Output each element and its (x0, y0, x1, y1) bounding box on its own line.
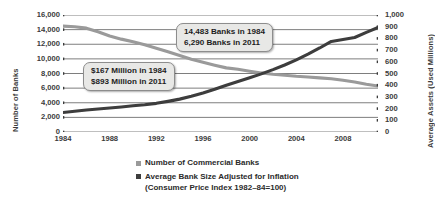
bank-size-callout: $167 Million in 1984 $893 Million in 201… (83, 62, 175, 91)
tick-mark (63, 101, 64, 104)
bank-size-callout-line-1: $167 Million in 1984 (91, 66, 167, 77)
tick-mark (63, 43, 64, 46)
x-tick-label: 1988 (101, 134, 118, 143)
tick-mark (63, 72, 64, 75)
right-tick-label: 800 (385, 34, 398, 42)
legend-label-bank-size-sub: (Consumer Price Index 1982–84=100) (145, 183, 299, 194)
left-tick-label: 16,000 (37, 11, 60, 19)
banks-callout-line-2: 6,290 Banks in 2011 (184, 38, 265, 49)
tick-mark (377, 119, 378, 122)
legend-item-banks: Number of Commercial Banks (136, 158, 396, 169)
right-tick-label: 500 (385, 70, 398, 78)
legend-label-banks: Number of Commercial Banks (145, 158, 259, 169)
left-tick-label: 10,000 (37, 55, 60, 63)
right-tick-label: 1,000 (385, 11, 404, 19)
right-tick-label: 700 (385, 46, 398, 54)
tick-mark (377, 15, 378, 16)
tick-mark (63, 58, 64, 61)
right-tick-label: 600 (385, 58, 398, 66)
legend-item-bank-size: Average Bank Size Adjusted for Inflation… (136, 172, 396, 194)
tick-mark (63, 15, 64, 16)
x-tick-label: 1984 (55, 134, 72, 143)
left-tick-label: 6,000 (41, 84, 60, 92)
x-tick-label: 1992 (148, 134, 165, 143)
right-axis-title: Average Assets (Used Millions) (426, 34, 435, 148)
chart-legend: Number of Commercial Banks Average Bank … (136, 158, 396, 196)
left-tick-label: 8,000 (41, 70, 60, 78)
tick-mark (377, 107, 378, 110)
left-tick-label: 14,000 (37, 26, 60, 34)
left-axis-title: Number of Banks (11, 68, 20, 132)
tick-mark (377, 61, 378, 64)
x-axis-ticks: 1984198819921996200020042008 (63, 134, 378, 148)
right-tick-label: 300 (385, 93, 398, 101)
banks-callout: 14,483 Banks in 1984 6,290 Banks in 2011 (176, 23, 273, 52)
tick-mark (63, 116, 64, 119)
tick-mark (377, 49, 378, 52)
tick-mark (63, 87, 64, 90)
right-tick-label: 200 (385, 105, 398, 113)
left-tick-label: 2,000 (41, 113, 60, 121)
tick-mark (377, 96, 378, 99)
banks-callout-line-1: 14,483 Banks in 1984 (184, 27, 265, 38)
tick-mark (63, 28, 64, 31)
x-tick-label: 1996 (195, 134, 212, 143)
left-tick-label: 12,000 (37, 40, 60, 48)
x-tick-label: 2008 (335, 134, 352, 143)
right-tick-label: 0 (385, 128, 389, 136)
tick-mark (377, 84, 378, 87)
tick-mark (377, 37, 378, 40)
left-tick-label: 4,000 (41, 99, 60, 107)
x-tick-label: 2004 (288, 134, 305, 143)
left-axis-ticks: 02,0004,0006,0008,00010,00012,00014,0001… (26, 0, 60, 141)
legend-label-bank-size: Average Bank Size Adjusted for Inflation… (145, 172, 299, 194)
right-tick-label: 100 (385, 116, 398, 124)
tick-mark (377, 131, 378, 132)
x-tick-label: 2000 (241, 134, 258, 143)
bank-size-callout-line-2: $893 Million in 2011 (91, 77, 167, 88)
tick-mark (63, 131, 64, 132)
right-axis-ticks: 01002003004005006007008009001,000 (385, 0, 419, 141)
tick-mark (377, 25, 378, 28)
right-tick-label: 900 (385, 23, 398, 31)
legend-swatch-icon (136, 174, 141, 179)
tick-mark (377, 72, 378, 75)
legend-swatch-icon (136, 161, 141, 166)
right-tick-label: 400 (385, 81, 398, 89)
legend-label-bank-size-main: Average Bank Size Adjusted for Inflation (145, 172, 299, 181)
